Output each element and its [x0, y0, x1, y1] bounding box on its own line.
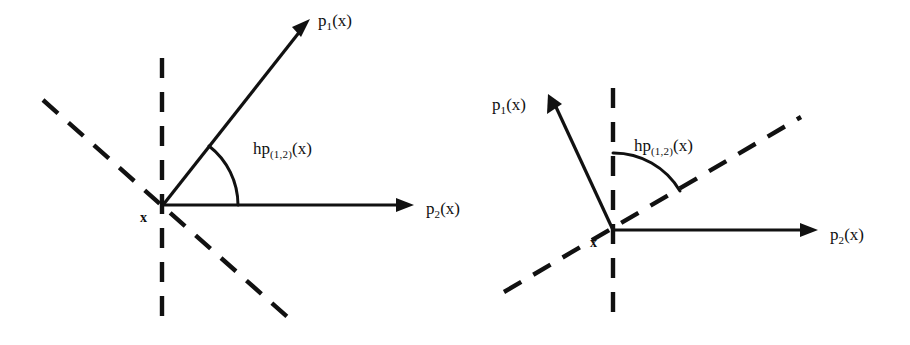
right-p2-label: p2(x) [830, 226, 864, 246]
left-angle-arc [209, 146, 238, 205]
right-angle-label: hp(1,2)(x) [634, 137, 693, 157]
diagram-svg [0, 0, 910, 345]
left-diagram [43, 19, 414, 326]
left-p1-arrowhead [292, 19, 310, 37]
left-p2-label: p2(x) [426, 200, 460, 220]
right-p1-arrowhead [547, 94, 562, 114]
right-angle-arc [613, 153, 680, 191]
right-diagram [504, 88, 818, 321]
left-angle-label-subscript: (1,2) [270, 148, 292, 160]
left-p1-label-tail: (x) [332, 11, 352, 30]
right-angle-label-subscript: (1,2) [651, 145, 673, 157]
left-angle-label-base: hp [253, 139, 270, 158]
left-p1-label: p1(x) [318, 12, 352, 32]
right-angle-label-tail: (x) [673, 136, 693, 155]
right-p1-label-base: p [492, 95, 501, 114]
left-p1-label-base: p [318, 11, 327, 30]
right-p1-label: p1(x) [492, 96, 526, 116]
left-p2-label-base: p [426, 199, 435, 218]
left-diagonal-dashed-line [43, 100, 292, 321]
right-p2-arrowhead [800, 223, 818, 237]
figure-canvas: p1(x) p2(x) hp(1,2)(x) x p1(x) p2(x) hp(… [0, 0, 910, 345]
right-p1-ray [556, 107, 613, 230]
left-origin-label: x [140, 211, 147, 225]
right-p2-label-tail: (x) [844, 225, 864, 244]
left-angle-label: hp(1,2)(x) [253, 140, 312, 160]
left-p2-arrowhead [396, 198, 414, 212]
right-angle-label-base: hp [634, 136, 651, 155]
left-angle-label-tail: (x) [292, 139, 312, 158]
right-p1-label-tail: (x) [506, 95, 526, 114]
right-p2-label-base: p [830, 225, 839, 244]
right-origin-label: x [590, 236, 597, 250]
left-p2-label-tail: (x) [440, 199, 460, 218]
